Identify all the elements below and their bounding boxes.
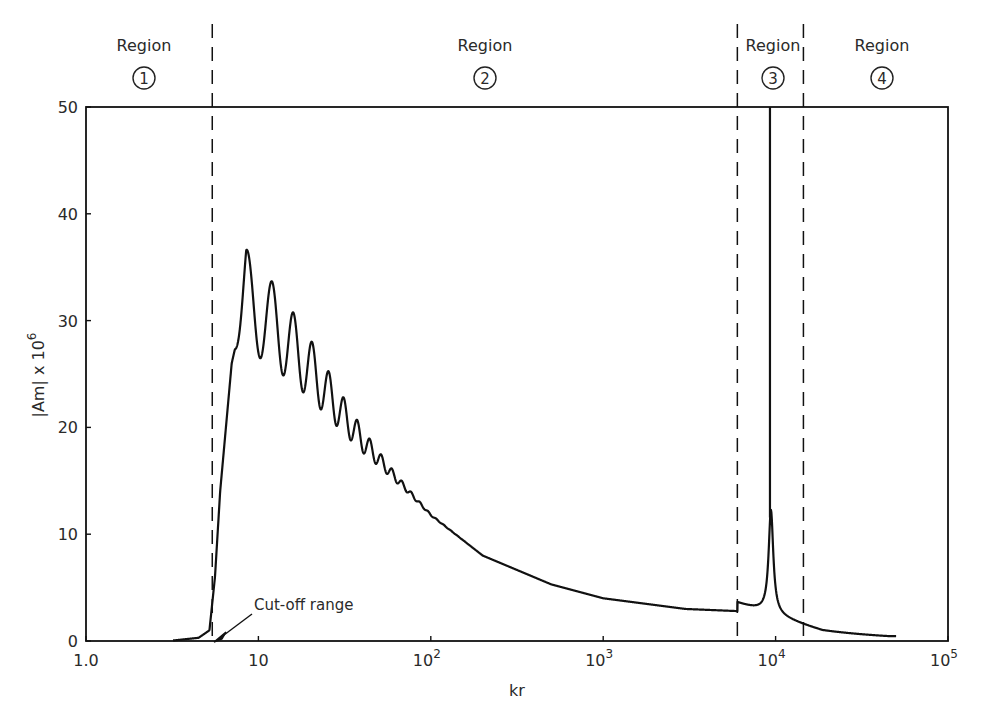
svg-text:Region: Region: [855, 36, 910, 55]
x-tick-label: 105: [930, 647, 958, 670]
x-tick-label: 10: [248, 651, 268, 670]
y-tick-label: 40: [58, 205, 78, 224]
y-tick-label: 50: [58, 98, 78, 117]
y-tick-label: 0: [68, 632, 78, 651]
amplitude-curve: [173, 250, 896, 641]
cutoff-annotation: Cut-off range: [214, 596, 353, 642]
y-axis-label: |Am| x 106: [25, 333, 48, 418]
svg-text:2: 2: [480, 70, 490, 88]
x-tick-label: 104: [758, 647, 786, 670]
x-tick-label: 103: [585, 647, 613, 670]
chart-canvas: Region1Region2Region3Region4 01020304050…: [0, 0, 989, 721]
region-boundaries: [212, 24, 803, 641]
x-axis-label: kr: [509, 681, 525, 700]
region-label-3: Region3: [746, 36, 801, 89]
y-tick-label: 30: [58, 312, 78, 331]
y-tick-label: 10: [58, 525, 78, 544]
svg-text:|Am| x 106: |Am| x 106: [25, 333, 48, 418]
cutoff-label: Cut-off range: [254, 596, 353, 614]
svg-text:3: 3: [768, 70, 778, 88]
region-label-4: Region4: [855, 36, 910, 89]
x-tick-label: 102: [413, 647, 441, 670]
y-tick-label: 20: [58, 418, 78, 437]
svg-text:Region: Region: [746, 36, 801, 55]
svg-text:4: 4: [877, 70, 887, 88]
region-label-1: Region1: [117, 36, 172, 89]
x-tick-label: 1.0: [73, 651, 98, 670]
svg-text:Region: Region: [117, 36, 172, 55]
region-label-2: Region2: [458, 36, 513, 89]
svg-text:1: 1: [139, 70, 149, 88]
svg-text:Region: Region: [458, 36, 513, 55]
region-labels: Region1Region2Region3Region4: [117, 36, 910, 89]
